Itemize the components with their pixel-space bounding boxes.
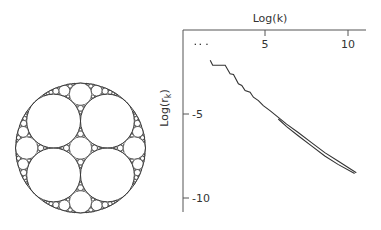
gasket-circle	[83, 159, 85, 161]
gasket-circle	[91, 150, 93, 152]
gasket-circle	[69, 83, 91, 105]
apollonian-gasket	[16, 83, 146, 213]
gasket-circle	[113, 147, 115, 149]
gasket-circle	[93, 210, 95, 212]
gasket-circle	[80, 114, 82, 116]
gasket-circle	[69, 98, 70, 99]
gasket-circle	[83, 105, 85, 107]
gasket-circle	[69, 191, 91, 213]
y-axis-label-close: )	[158, 89, 171, 93]
gasket-outer-circle	[16, 83, 146, 213]
y-tick-label-1: -10	[192, 192, 210, 205]
loglog-plot: Log(k) Log(rk) 510-5-10	[158, 12, 366, 212]
gasket-circle	[115, 147, 118, 150]
gasket-circle	[37, 150, 39, 152]
gasket-circle	[17, 134, 19, 136]
gasket-circle	[139, 137, 140, 138]
x-tick-label-1: 10	[341, 38, 355, 51]
gasket-circle	[58, 201, 60, 203]
gasket-circle	[28, 162, 29, 163]
gasket-circle	[37, 144, 39, 146]
gasket-circle	[133, 184, 135, 186]
gasket-circle	[138, 176, 139, 177]
gasket-circle	[95, 96, 96, 97]
gasket-circle	[68, 150, 70, 152]
gasket-circle	[91, 98, 92, 99]
gasket-circle	[83, 135, 85, 137]
figure: Log(k) Log(rk) 510-5-10	[0, 0, 381, 230]
gasket-circle	[43, 94, 45, 96]
gasket-circle	[74, 211, 75, 212]
gasket-circle	[131, 133, 132, 134]
gasket-circle	[52, 205, 53, 206]
x-tick-label-0: 5	[262, 38, 269, 51]
gasket-circle	[139, 158, 140, 159]
gasket-circle	[46, 147, 48, 149]
gasket-circle	[131, 162, 132, 163]
gasket-circle	[27, 184, 29, 186]
gasket-circle	[144, 153, 145, 154]
x-axis-label: Log(k)	[253, 12, 288, 25]
gasket-circle	[80, 168, 82, 170]
gasket-circle	[90, 88, 91, 89]
gasket-circle	[90, 207, 91, 208]
gasket-circle	[79, 111, 82, 114]
gasket-circle	[27, 111, 29, 113]
gasket-circle	[121, 150, 123, 152]
gasket-circle	[69, 88, 70, 89]
gasket-circle	[43, 200, 45, 202]
gasket-circle	[108, 205, 109, 206]
gasket-circle	[143, 160, 145, 162]
gasket-circle	[134, 126, 136, 128]
data-point	[195, 44, 196, 45]
gasket-circle	[69, 137, 91, 159]
gasket-circle	[129, 136, 130, 137]
gasket-circle	[25, 126, 27, 128]
gasket-circle	[69, 207, 70, 208]
gasket-circle	[16, 137, 38, 159]
gasket-circle	[25, 169, 27, 171]
gasket-circle	[30, 158, 31, 159]
gasket-circle	[67, 84, 69, 86]
data-point	[206, 44, 207, 45]
gasket-circle	[95, 199, 96, 200]
gasket-circle	[144, 141, 145, 142]
series-upper	[210, 60, 356, 173]
gasket-circle	[116, 94, 118, 96]
gasket-circle	[79, 182, 82, 185]
y-axis-label: Log(rk)	[158, 89, 173, 126]
svg-text:Log(rk): Log(rk)	[158, 89, 173, 126]
gasket-circle	[76, 159, 78, 161]
gasket-circle	[80, 127, 82, 129]
data-point	[200, 44, 201, 45]
gasket-circle	[80, 181, 82, 183]
gasket-circle	[134, 169, 136, 171]
gasket-circle	[93, 84, 95, 86]
gasket-circle	[69, 197, 70, 198]
gasket-circle	[28, 133, 29, 134]
gasket-circle	[22, 119, 23, 120]
gasket-circle	[22, 176, 23, 177]
gasket-circle	[116, 200, 118, 202]
gasket-circle	[65, 199, 66, 200]
gasket-circle	[68, 144, 70, 146]
gasket-circle	[67, 210, 69, 212]
gasket-circle	[44, 147, 47, 150]
gasket-circle	[123, 137, 145, 159]
gasket-circle	[58, 93, 60, 95]
y-axis-label-main: Log(r	[158, 98, 171, 127]
gasket-circle	[108, 89, 109, 90]
gasket-circle	[86, 83, 87, 84]
gasket-circle	[21, 158, 22, 159]
gasket-circle	[101, 93, 103, 95]
gasket-circle	[121, 144, 123, 146]
gasket-circle	[83, 189, 85, 191]
gasket-circle	[143, 134, 145, 136]
gasket-circle	[16, 141, 17, 142]
gasket-circle	[91, 197, 92, 198]
gasket-circle	[76, 189, 78, 191]
y-tick-label-0: -5	[192, 108, 203, 121]
gasket-circle	[65, 96, 66, 97]
gasket-circle	[138, 119, 139, 120]
gasket-circle	[30, 136, 31, 137]
